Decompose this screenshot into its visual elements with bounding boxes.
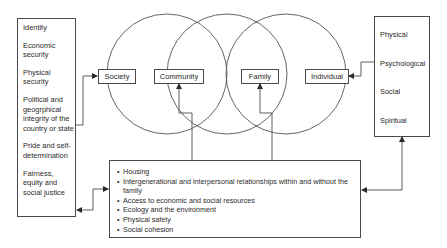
factor-physical-safety: Physical safety: [117, 215, 360, 225]
arrow-left-box-to-bottom: [93, 189, 108, 210]
shared-factors-box: Housing Intergenerational and interperso…: [109, 160, 361, 238]
factor-political-integrity: Political and geogrphical integrity of t…: [23, 95, 75, 133]
factor-economic-security: Economic security: [23, 41, 75, 60]
factor-identity: Identity: [23, 23, 75, 33]
factor-relationships: Intergenerational and interpersonal rela…: [117, 177, 360, 196]
factor-housing: Housing: [117, 167, 360, 177]
factor-physical-security: Physical security: [23, 68, 75, 87]
factor-pride: Pride and self-determination: [23, 141, 75, 160]
factor-social: Social: [380, 87, 429, 96]
arrow-left-box-to-society: [76, 76, 97, 125]
arrow-right-box-to-individual: [349, 62, 374, 76]
factor-physical: Physical: [380, 30, 429, 39]
individual-label: Individual: [305, 69, 349, 84]
factor-ecology: Ecology and the environment: [117, 205, 360, 215]
factor-social-cohesion: Social cohesion: [117, 225, 360, 235]
society-factors-box: Identity Economic security Physical secu…: [17, 18, 76, 217]
community-label: Community: [154, 69, 204, 84]
family-label: Family: [241, 69, 279, 84]
individual-factors-box: Physical Psychological Social Spiritual: [374, 16, 430, 137]
factor-fairness: Fairness, equity and social justice: [23, 169, 75, 198]
shared-factors-list: Housing Intergenerational and interperso…: [117, 167, 360, 234]
factor-access-resources: Access to economic and social resources: [117, 196, 360, 206]
society-label: Society: [98, 69, 136, 84]
factor-spiritual: Spiritual: [380, 116, 429, 125]
arrow-bottom-to-family: [260, 84, 272, 160]
factor-psychological: Psychological: [380, 59, 429, 68]
arrow-bottom-to-community: [179, 84, 192, 160]
